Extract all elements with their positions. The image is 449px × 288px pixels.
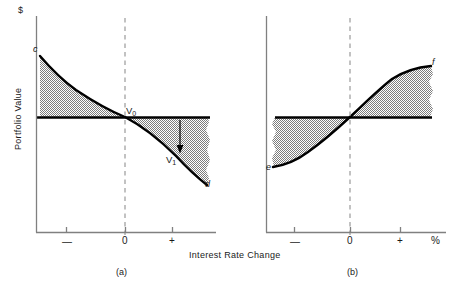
figure-container: $ Portfolio Value c d V0 V1 — 0 + Intere…: [0, 0, 449, 288]
y-axis-unit: $: [18, 6, 23, 15]
x-axis-label: Interest Rate Change: [189, 250, 281, 260]
x-tick-label-positive-a: +: [169, 236, 175, 246]
x-tick-label-positive-b: +: [397, 236, 403, 246]
curve-point-c: c: [33, 45, 38, 54]
panel-a-caption: (a): [116, 268, 127, 277]
x-tick-label-negative-b: —: [290, 237, 300, 247]
label-v0-subscript: 0: [132, 110, 136, 117]
shaded-region-above-b: [350, 66, 433, 117]
label-v0: V0: [126, 106, 136, 116]
x-axis-unit-percent: %: [431, 236, 440, 246]
x-tick-label-zero-a: 0: [122, 236, 128, 246]
panel-b-caption: (b): [347, 268, 358, 277]
curve-point-e: e: [266, 163, 271, 172]
panel-a: [36, 16, 216, 238]
x-tick-label-zero-b: 0: [347, 236, 353, 246]
shaded-region-loss-a: [125, 117, 210, 185]
panel-b: [266, 16, 446, 238]
curve-point-d: d: [205, 180, 210, 189]
x-tick-label-negative-a: —: [62, 237, 72, 247]
label-v1: V1: [166, 155, 176, 165]
label-v1-subscript: 1: [172, 159, 176, 166]
y-axis-label: Portfolio Value: [13, 88, 23, 150]
shaded-region-gain-a: [40, 56, 125, 117]
curve-point-f: f: [432, 58, 435, 67]
shaded-region-below-b: [272, 117, 350, 167]
